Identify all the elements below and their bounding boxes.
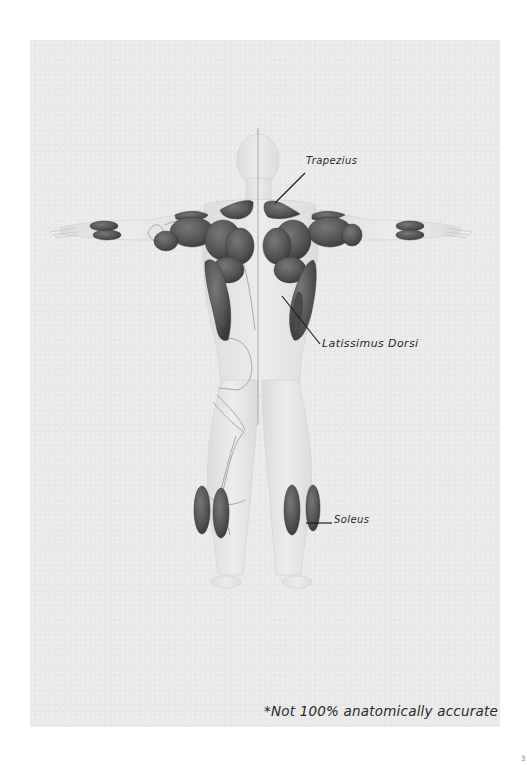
disclaimer-note: *Not 100% anatomically accurate: [264, 703, 498, 719]
calf-left-outer: [194, 486, 210, 534]
label-soleus: Soleus: [334, 514, 369, 525]
calf-left-inner: [213, 488, 229, 538]
calf-right-inner: [284, 485, 300, 535]
page-number: 3: [521, 755, 525, 763]
calf-right-outer: [306, 485, 320, 531]
label-trapezius: Trapezius: [306, 155, 357, 166]
body-silhouette: [60, 134, 460, 588]
leader-line-icon: [275, 173, 305, 203]
anatomy-figure: [0, 0, 527, 765]
label-latissimus-dorsi: Latissimus Dorsi: [322, 337, 419, 350]
